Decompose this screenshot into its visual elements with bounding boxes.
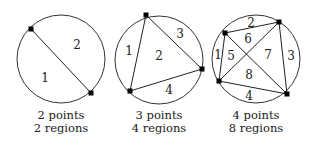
region-label: 2	[155, 49, 163, 63]
chord-line	[279, 22, 287, 94]
region-label: 3	[176, 27, 184, 41]
point-marker	[277, 20, 282, 25]
caption-2-points: 2 points 2 regions	[16, 109, 106, 135]
region-label: 1	[125, 44, 133, 58]
point-marker	[144, 13, 149, 18]
panel-4-points: 12345678	[212, 15, 300, 103]
panel-2-points: 12	[17, 15, 105, 103]
caption-3-points: 3 points 4 regions	[114, 109, 204, 135]
point-marker	[89, 91, 94, 96]
region-label: 4	[165, 83, 173, 97]
point-marker	[217, 79, 222, 84]
point-marker	[285, 92, 290, 97]
region-label: 2	[247, 16, 255, 30]
chord-line	[31, 29, 91, 93]
point-marker	[29, 27, 34, 32]
panel-3-points: 1234	[115, 13, 205, 105]
region-label: 4	[245, 89, 253, 103]
region-label: 6	[244, 32, 252, 46]
region-label: 3	[287, 49, 295, 63]
region-label: 7	[264, 48, 272, 62]
region-label: 2	[73, 38, 81, 52]
point-marker	[200, 67, 205, 72]
point-marker	[128, 89, 133, 94]
caption-regions: 2 regions	[16, 122, 106, 135]
chord-line	[225, 33, 287, 94]
caption-4-points: 4 points 8 regions	[211, 109, 301, 135]
point-marker	[223, 31, 228, 36]
caption-regions: 8 regions	[211, 122, 301, 135]
region-label: 5	[227, 49, 235, 63]
region-label: 8	[245, 68, 253, 82]
region-label: 1	[214, 48, 222, 62]
caption-regions: 4 regions	[114, 122, 204, 135]
chord-line	[219, 81, 287, 94]
region-label: 1	[41, 71, 49, 85]
